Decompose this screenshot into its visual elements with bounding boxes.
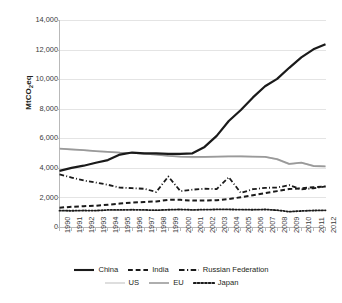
x-tick-label: 2001 <box>196 216 205 232</box>
x-tick-label: 2011 <box>317 217 326 233</box>
legend-item-japan[interactable]: Japan <box>193 278 239 287</box>
x-tick-label: 2009 <box>292 216 301 232</box>
x-tick-label: 2007 <box>268 216 277 232</box>
x-tick-label: 1999 <box>171 216 180 232</box>
x-tick-label: 2003 <box>220 216 229 232</box>
x-tick-label: 2006 <box>256 216 265 232</box>
legend-label: EU <box>173 278 184 287</box>
legend-item-china[interactable]: China <box>73 265 118 274</box>
legend-row: USEUJapan <box>0 276 342 289</box>
x-tick-label: 1997 <box>147 216 156 232</box>
chart-legend: ChinaIndiaRussian FederationUSEUJapan <box>0 263 342 295</box>
x-tick-label: 2005 <box>244 216 253 232</box>
legend-row: ChinaIndiaRussian Federation <box>0 263 342 276</box>
x-tick-label: 2004 <box>232 216 241 232</box>
x-tick-label: 2002 <box>208 216 217 232</box>
x-tick-label: 2000 <box>184 216 193 232</box>
legend-swatch-icon <box>104 279 126 287</box>
emissions-line-chart: MtCO2eq 14,00012,00010,0008,0006,0004,00… <box>0 0 342 303</box>
x-tick-label: 1993 <box>99 216 108 232</box>
x-axis-tick-labels: 1990199119921993199419951996199719981999… <box>0 0 342 303</box>
legend-swatch-icon <box>193 279 215 287</box>
x-tick-label: 2012 <box>329 216 338 232</box>
legend-item-russian-federation[interactable]: Russian Federation <box>178 265 269 274</box>
x-tick-label: 1998 <box>159 216 168 232</box>
legend-label: India <box>152 265 168 274</box>
legend-label: Japan <box>218 278 239 287</box>
legend-label: Russian Federation <box>203 265 269 274</box>
legend-item-india[interactable]: India <box>127 265 168 274</box>
x-tick-label: 1990 <box>63 216 72 232</box>
legend-item-eu[interactable]: EU <box>148 278 184 287</box>
legend-swatch-icon <box>73 266 95 274</box>
x-tick-label: 1992 <box>87 216 96 232</box>
x-tick-label: 2008 <box>280 216 289 232</box>
legend-swatch-icon <box>178 266 200 274</box>
legend-swatch-icon <box>148 279 170 287</box>
x-tick-label: 1995 <box>123 216 132 232</box>
x-tick-label: 1996 <box>135 216 144 232</box>
x-tick-label: 1994 <box>111 216 120 232</box>
legend-item-us[interactable]: US <box>104 278 140 287</box>
x-tick-label: 2010 <box>304 216 313 232</box>
legend-label: China <box>98 265 118 274</box>
legend-label: US <box>129 278 140 287</box>
legend-swatch-icon <box>127 266 149 274</box>
x-tick-label: 1991 <box>75 216 84 232</box>
